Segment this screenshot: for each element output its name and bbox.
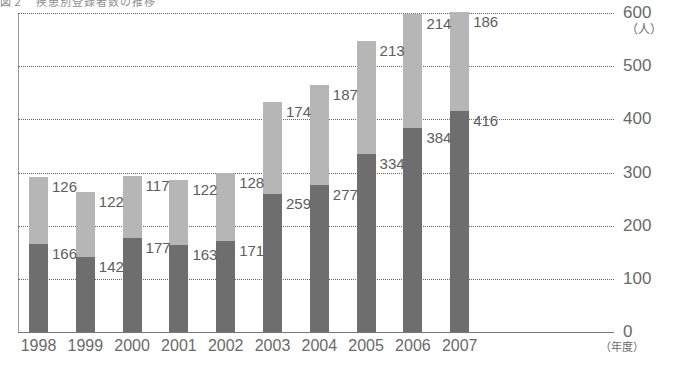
x-tick-label-1998: 1998 bbox=[14, 338, 64, 354]
y-tick-label-200: 200 bbox=[623, 217, 669, 234]
value-label-lower-1999: 142 bbox=[99, 259, 124, 274]
bar-segment-upper-2007 bbox=[450, 12, 469, 111]
value-label-lower-2006: 384 bbox=[426, 130, 451, 145]
bar-segment-lower-2005 bbox=[357, 154, 376, 332]
value-label-lower-2007: 416 bbox=[473, 113, 498, 128]
value-label-upper-2002: 128 bbox=[239, 175, 264, 190]
bar-2002 bbox=[216, 173, 235, 332]
value-label-lower-1998: 166 bbox=[52, 246, 77, 261]
bar-segment-upper-2005 bbox=[357, 41, 376, 154]
value-label-upper-2007: 186 bbox=[473, 14, 498, 29]
x-tick-label-2004: 2004 bbox=[294, 338, 344, 354]
plot-area bbox=[18, 13, 614, 332]
bar-segment-upper-2000 bbox=[123, 176, 142, 238]
x-tick-label-2000: 2000 bbox=[107, 338, 157, 354]
bar-segment-lower-2004 bbox=[310, 185, 329, 332]
x-axis-unit-label: （年度） bbox=[600, 342, 644, 353]
value-label-lower-2001: 163 bbox=[192, 247, 217, 262]
figure-caption-top: 図２ 疾患別登録者数の推移 bbox=[0, 0, 675, 8]
x-tick-label-2006: 2006 bbox=[388, 338, 438, 354]
value-label-upper-1998: 126 bbox=[52, 179, 77, 194]
bar-segment-upper-2004 bbox=[310, 85, 329, 184]
bar-segment-upper-1999 bbox=[76, 192, 95, 257]
bar-segment-lower-2001 bbox=[169, 245, 188, 332]
value-label-lower-2000: 177 bbox=[146, 240, 171, 255]
value-label-lower-2002: 171 bbox=[239, 243, 264, 258]
y-axis-unit-label: （人） bbox=[626, 24, 662, 36]
y-tick-label-600: 600 bbox=[623, 4, 669, 21]
value-label-upper-2005: 213 bbox=[380, 43, 405, 58]
bar-segment-lower-1999 bbox=[76, 257, 95, 332]
x-tick-label-2002: 2002 bbox=[201, 338, 251, 354]
y-tick-label-400: 400 bbox=[623, 110, 669, 127]
x-tick-label-2007: 2007 bbox=[435, 338, 485, 354]
value-label-upper-2003: 174 bbox=[286, 104, 311, 119]
bar-2004 bbox=[310, 85, 329, 332]
value-label-lower-2003: 259 bbox=[286, 196, 311, 211]
bar-2003 bbox=[263, 102, 282, 332]
x-axis-line bbox=[18, 332, 614, 333]
x-tick-label-2001: 2001 bbox=[154, 338, 204, 354]
value-label-upper-2004: 187 bbox=[333, 87, 358, 102]
bar-segment-lower-2007 bbox=[450, 111, 469, 332]
y-tick-label-500: 500 bbox=[623, 57, 669, 74]
value-label-upper-2001: 122 bbox=[192, 182, 217, 197]
chart-figure: 図２ 疾患別登録者数の推移 （人） （年度） 60050040030020010… bbox=[0, 0, 675, 366]
bar-segment-upper-1998 bbox=[29, 177, 48, 244]
y-tick-label-100: 100 bbox=[623, 270, 669, 287]
gridline-600 bbox=[18, 13, 614, 14]
bar-1998 bbox=[29, 177, 48, 332]
value-label-lower-2004: 277 bbox=[333, 187, 358, 202]
bar-segment-lower-2002 bbox=[216, 241, 235, 332]
bar-segment-lower-2006 bbox=[403, 128, 422, 332]
value-label-upper-2006: 214 bbox=[426, 16, 451, 31]
bar-segment-upper-2006 bbox=[403, 14, 422, 128]
bar-2005 bbox=[357, 41, 376, 332]
bar-segment-upper-2001 bbox=[169, 180, 188, 245]
value-label-upper-1999: 122 bbox=[99, 194, 124, 209]
value-label-upper-2000: 117 bbox=[146, 178, 170, 193]
y-tick-label-0: 0 bbox=[623, 323, 669, 340]
x-tick-label-2003: 2003 bbox=[248, 338, 298, 354]
bar-segment-lower-1998 bbox=[29, 244, 48, 332]
bar-2006 bbox=[403, 14, 422, 332]
bar-segment-upper-2003 bbox=[263, 102, 282, 195]
bar-segment-lower-2000 bbox=[123, 238, 142, 332]
y-tick-label-300: 300 bbox=[623, 164, 669, 181]
gridline-500 bbox=[18, 66, 614, 67]
bar-2007 bbox=[450, 12, 469, 332]
bar-2001 bbox=[169, 180, 188, 332]
bar-segment-upper-2002 bbox=[216, 173, 235, 241]
bar-1999 bbox=[76, 192, 95, 332]
bar-segment-lower-2003 bbox=[263, 194, 282, 332]
x-tick-label-2005: 2005 bbox=[341, 338, 391, 354]
x-tick-label-1999: 1999 bbox=[60, 338, 110, 354]
figure-caption-bottom bbox=[0, 356, 675, 366]
bar-2000 bbox=[123, 176, 142, 332]
value-label-lower-2005: 334 bbox=[380, 156, 405, 171]
